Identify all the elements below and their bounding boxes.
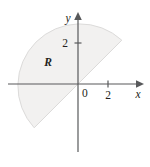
- region-R-sector-path: [18, 24, 122, 128]
- shaded-region-R: [18, 24, 122, 128]
- x-axis-label: x: [134, 88, 141, 100]
- region-label-R: R: [43, 56, 52, 68]
- origin-label: 0: [82, 87, 88, 99]
- y-axis-arrowhead-icon: [74, 12, 82, 20]
- x-tick-label-2: 2: [105, 89, 111, 101]
- y-axis-label: y: [64, 12, 71, 25]
- figure-container: y x 2 2 0 R: [0, 0, 150, 167]
- y-tick-label-2: 2: [62, 37, 68, 49]
- sector-region-figure: y x 2 2 0 R: [0, 0, 150, 167]
- x-axis-arrowhead-icon: [136, 80, 144, 88]
